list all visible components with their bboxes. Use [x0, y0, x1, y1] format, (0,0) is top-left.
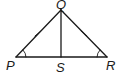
vertex-label-p: P: [6, 59, 15, 72]
triangle-diagram: Q P S R: [0, 0, 123, 80]
tick-mark-qr: [81, 31, 87, 36]
point-label-s: S: [56, 61, 65, 74]
angle-arc-r: [97, 50, 100, 57]
angle-arc-p: [23, 50, 26, 57]
vertex-label-r: R: [106, 59, 115, 72]
vertex-label-q: Q: [56, 0, 66, 11]
tick-mark-pq: [35, 31, 41, 36]
